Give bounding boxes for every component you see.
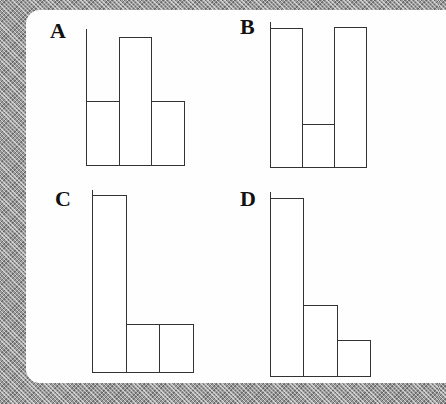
figure-panel: [26, 10, 446, 383]
bar-c-1: [92, 195, 127, 373]
bar-a-1: [86, 101, 120, 166]
panel-label-b: B: [240, 16, 255, 38]
bar-a-2: [119, 37, 153, 166]
bar-b-3: [334, 27, 367, 168]
bar-a-3: [151, 101, 185, 166]
bar-b-1: [270, 28, 303, 168]
panel-label-c: C: [55, 188, 71, 210]
panel-label-d: D: [240, 188, 256, 210]
bar-d-2: [303, 305, 337, 377]
panel-label-a: A: [50, 20, 66, 42]
bar-d-3: [337, 340, 371, 377]
bar-c-2: [126, 324, 161, 373]
bar-d-1: [270, 198, 304, 377]
bar-c-3: [159, 324, 194, 373]
bar-b-2: [302, 124, 335, 168]
